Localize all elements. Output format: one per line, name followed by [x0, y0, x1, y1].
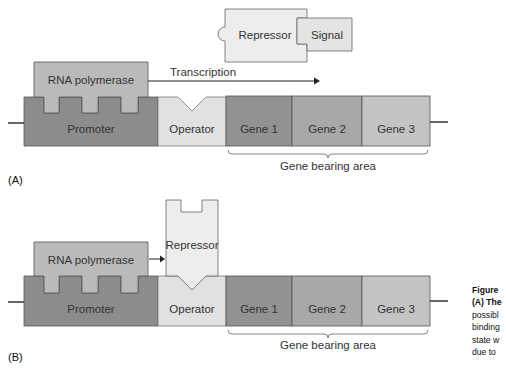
caption-line-2: possibl: [472, 309, 506, 321]
gene-2-label: Gene 2: [308, 123, 346, 135]
repressor-label: Repressor: [238, 29, 291, 41]
arrowhead-icon: [314, 78, 320, 85]
gene-2-block: [292, 276, 362, 326]
panel-b-label: (B): [8, 351, 23, 363]
signal-label: Signal: [311, 29, 343, 41]
caption-line-1: (A) The: [472, 297, 502, 307]
operator-label: Operator: [169, 123, 215, 135]
promoter-label: Promoter: [67, 303, 114, 315]
panel-a-label: (A): [8, 174, 23, 186]
gene-area-brace: [228, 330, 428, 338]
gene-3-label: Gene 3: [377, 123, 415, 135]
transcription-label: Transcription: [170, 66, 236, 78]
caption-line-5: due to: [472, 346, 506, 358]
rna-polymerase-shape: [34, 62, 148, 113]
repressor-label: Repressor: [165, 239, 218, 251]
gene-3-block: [362, 96, 430, 146]
caption-line-4: state w: [472, 334, 506, 346]
gene-area-brace: [228, 150, 428, 158]
gene-2-block: [292, 96, 362, 146]
operator-label: Operator: [169, 303, 215, 315]
arrowhead-icon: [160, 256, 165, 263]
rna-polymerase-shape: [34, 242, 148, 293]
gene-1-block: [226, 96, 292, 146]
promoter-label: Promoter: [67, 123, 114, 135]
caption-title: Figure: [472, 285, 498, 295]
gene-3-label: Gene 3: [377, 303, 415, 315]
rna-polymerase-label: RNA polymerase: [48, 74, 134, 86]
panel-b: RNA polymerase Promoter Repressor Operat…: [8, 200, 448, 363]
gene-1-label: Gene 1: [240, 303, 278, 315]
operator-block: [158, 97, 226, 146]
caption-line-3: binding: [472, 321, 506, 333]
gene-area-label: Gene bearing area: [280, 339, 377, 351]
rna-polymerase-label: RNA polymerase: [48, 254, 134, 266]
gene-1-block: [226, 276, 292, 326]
gene-1-label: Gene 1: [240, 123, 278, 135]
figure-caption: Figure (A) The possibl binding state w d…: [472, 284, 506, 358]
gene-3-block: [362, 276, 430, 326]
panel-a: Repressor Signal Transcription RNA polym…: [8, 9, 448, 186]
repressor-signal-complex: Repressor Signal: [218, 9, 352, 62]
gene-2-label: Gene 2: [308, 303, 346, 315]
gene-area-label: Gene bearing area: [280, 160, 377, 172]
